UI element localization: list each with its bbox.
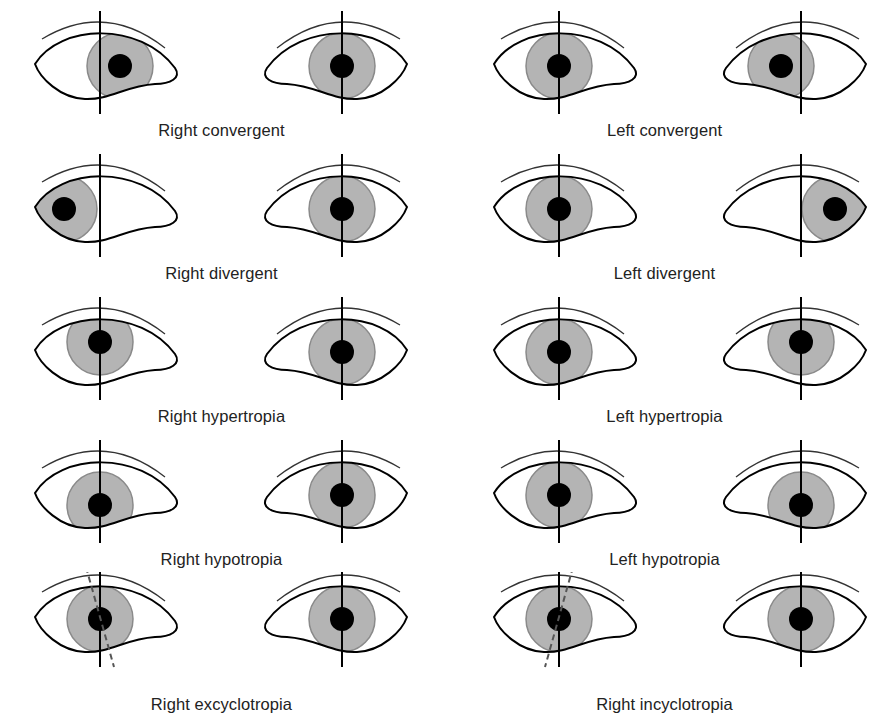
left-eye	[265, 440, 407, 543]
panel-left-divergent: Left divergent	[443, 143, 886, 287]
pupil	[52, 197, 76, 221]
panel-caption: Right hypotropia	[0, 550, 443, 569]
panel-caption: Left convergent	[443, 121, 886, 140]
strabismus-diagram: Right convergent Left convergent Right d…	[0, 0, 886, 719]
eye-pair	[0, 286, 443, 406]
panel-caption: Right hypertropia	[0, 407, 443, 426]
panel-caption: Right convergent	[0, 121, 443, 140]
panel-caption: Left hypertropia	[443, 407, 886, 426]
pupil	[769, 54, 793, 78]
panel-caption: Left hypotropia	[443, 550, 886, 569]
right-eye	[494, 11, 636, 114]
panel-right-incyclotropia: Right incyclotropia	[443, 572, 886, 716]
pupil	[108, 54, 132, 78]
right-eye	[494, 297, 636, 400]
right-eye	[35, 440, 177, 543]
right-eye	[494, 440, 636, 543]
panel-left-hypotropia: Left hypotropia	[443, 429, 886, 573]
eye-pair	[443, 429, 886, 549]
right-eye	[31, 154, 177, 257]
left-eye	[724, 572, 866, 667]
left-eye	[265, 154, 407, 257]
panel-right-hypotropia: Right hypotropia	[0, 429, 443, 573]
eye-pair	[443, 572, 886, 692]
panel-right-excyclotropia: Right excyclotropia	[0, 572, 443, 716]
right-eye	[494, 572, 636, 667]
panel-caption: Left divergent	[443, 264, 886, 283]
eye-pair	[0, 0, 443, 120]
eye-pair	[0, 572, 443, 692]
right-eye	[35, 572, 177, 667]
eye-pair	[0, 429, 443, 549]
right-eye	[494, 154, 636, 257]
panel-caption: Right incyclotropia	[443, 695, 886, 714]
eye-pair	[443, 143, 886, 263]
eye-pair	[443, 286, 886, 406]
panel-caption: Right excyclotropia	[0, 695, 443, 714]
left-eye	[724, 297, 866, 400]
panel-right-divergent: Right divergent	[0, 143, 443, 287]
panel-left-convergent: Left convergent	[443, 0, 886, 144]
panel-right-hypertropia: Right hypertropia	[0, 286, 443, 430]
panel-right-convergent: Right convergent	[0, 0, 443, 144]
left-eye	[724, 11, 866, 114]
left-eye	[724, 154, 868, 257]
eye-pair	[443, 0, 886, 120]
panel-caption: Right divergent	[0, 264, 443, 283]
eye-pair	[0, 143, 443, 263]
left-eye	[265, 11, 407, 114]
right-eye	[35, 297, 177, 400]
left-eye	[265, 572, 407, 667]
left-eye	[724, 440, 866, 543]
panel-left-hypertropia: Left hypertropia	[443, 286, 886, 430]
left-eye	[265, 297, 407, 400]
pupil	[823, 197, 847, 221]
right-eye	[35, 11, 177, 114]
